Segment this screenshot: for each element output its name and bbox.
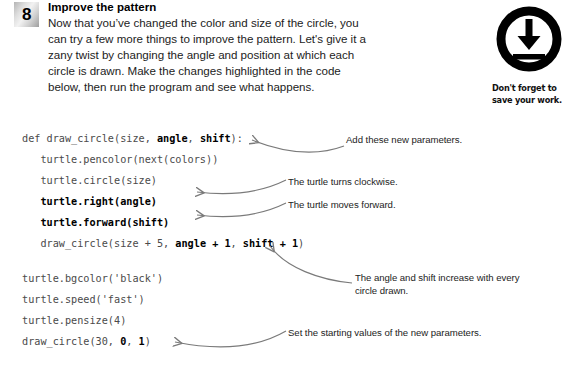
code-segment: , <box>231 238 243 249</box>
def-line: def draw_circle(size, angle, shift): <box>22 128 322 149</box>
code-segment: , <box>126 336 138 347</box>
callout-moves-forward: The turtle moves forward. <box>288 199 488 212</box>
code-segment: ) <box>145 336 151 347</box>
bgcolor-line: turtle.bgcolor('black') <box>22 268 322 289</box>
code-segment: draw_circle(size + 5, <box>22 238 175 249</box>
callout-starting-values: Set the starting values of the new param… <box>288 327 488 340</box>
step-title: Improve the pattern <box>48 1 156 13</box>
code-segment: , <box>188 133 200 144</box>
code-segment: angle <box>157 133 188 144</box>
code-segment: turtle.pensize(4) <box>22 315 126 326</box>
code-segment: draw_circle(30, <box>22 336 120 347</box>
callout-turns-clockwise: The turtle turns clockwise. <box>288 176 488 189</box>
save-reminder-caption: Don't forget to save your work. <box>492 83 565 106</box>
speed-line: turtle.speed('fast') <box>22 289 322 310</box>
call-line: draw_circle(30, 0, 1) <box>22 331 322 352</box>
circle-line: turtle.circle(size) <box>22 170 322 191</box>
code-segment: ) <box>298 238 304 249</box>
step-header: 8 Improve the pattern Now that you’ve ch… <box>0 0 565 120</box>
code-segment: turtle.bgcolor('black') <box>22 273 163 284</box>
code-segment: turtle.circle(size) <box>22 175 157 186</box>
blank-line <box>22 254 322 268</box>
pensize-line: turtle.pensize(4) <box>22 310 322 331</box>
recurse-line: draw_circle(size + 5, angle + 1, shift +… <box>22 233 322 254</box>
step-body-text: Now that you’ve changed the color and si… <box>48 15 370 95</box>
code-segment: turtle.speed('fast') <box>22 294 145 305</box>
code-segment: turtle.right(angle) <box>22 196 157 207</box>
callout-angle-shift-increase: The angle and shift increase with every … <box>355 272 530 297</box>
code-segment: turtle.pencolor(next(colors)) <box>22 154 218 165</box>
download-icon <box>496 3 562 77</box>
code-block: def draw_circle(size, angle, shift): tur… <box>22 128 322 352</box>
code-segment <box>22 255 28 266</box>
code-segment: ): <box>231 133 243 144</box>
callout-add-parameters: Add these new parameters. <box>346 134 536 147</box>
code-segment: shift <box>200 133 231 144</box>
code-segment: shift + 1 <box>243 238 298 249</box>
code-segment: def draw_circle(size, <box>22 133 157 144</box>
forward-line: turtle.forward(shift) <box>22 212 322 233</box>
code-segment: angle + 1 <box>175 238 230 249</box>
code-segment: turtle.forward(shift) <box>22 217 169 228</box>
right-line: turtle.right(angle) <box>22 191 322 212</box>
step-number-badge: 8 <box>14 2 39 27</box>
pencolor-line: turtle.pencolor(next(colors)) <box>22 149 322 170</box>
